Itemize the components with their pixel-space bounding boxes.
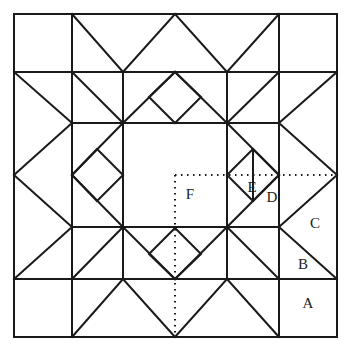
label-a: A	[303, 295, 314, 311]
diagram-root: A B C D E F	[0, 0, 351, 351]
label-b: B	[298, 256, 308, 272]
label-e: E	[247, 179, 256, 195]
label-d: D	[267, 189, 278, 205]
label-f: F	[186, 186, 194, 202]
label-c: C	[310, 215, 320, 231]
quilt-block-diagram: A B C D E F	[0, 0, 351, 351]
